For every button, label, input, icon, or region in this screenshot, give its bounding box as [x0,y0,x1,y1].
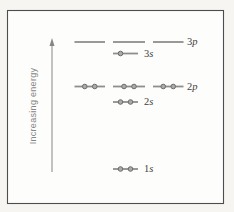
level-label-letter: s [149,96,153,107]
level-label-letter: p [191,36,197,47]
level-label-1s: 1s [144,163,153,174]
electron-dot [132,84,137,89]
orbital-energy-diagram-page: Increasing energy 3p3s2p2s1s [0,0,234,212]
energy-level-diagram: Increasing energy 3p3s2p2s1s [0,0,234,212]
electron-dot [171,84,176,89]
energy-axis-label: Increasing energy [28,67,38,144]
electron-dot [82,84,87,89]
level-label-3p: 3p [187,36,198,47]
electron-dot [161,84,166,89]
level-label-letter: p [191,81,197,92]
level-label-letter: s [149,163,153,174]
electron-dot [92,84,97,89]
level-label-2p: 2p [187,81,198,92]
electron-dot [122,84,127,89]
electron-dot [128,167,133,172]
electron-dot [118,100,123,105]
electron-dot [118,167,123,172]
level-label-3s: 3s [144,48,153,59]
level-label-letter: s [149,48,153,59]
electron-dot [128,100,133,105]
electron-dot [118,51,123,56]
level-label-2s: 2s [144,96,153,107]
